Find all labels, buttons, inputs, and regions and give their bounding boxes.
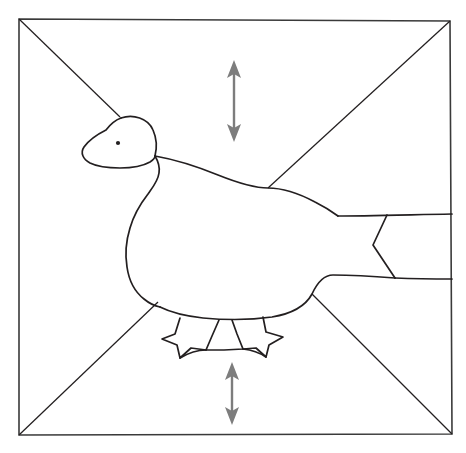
goose-diagram bbox=[0, 0, 466, 453]
goose-tail-bottom bbox=[395, 278, 452, 279]
goose-eye bbox=[116, 141, 120, 145]
figure-container bbox=[0, 0, 466, 453]
